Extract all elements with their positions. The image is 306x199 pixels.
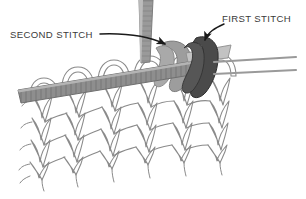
diagram-canvas: SECOND STITCH FIRST STITCH [0, 0, 306, 199]
vertical-knitting-needle [139, 0, 153, 63]
knitting-diagram: SECOND STITCH FIRST STITCH [0, 0, 306, 199]
first-stitch-label: FIRST STITCH [222, 13, 291, 24]
second-stitch-label: SECOND STITCH [10, 29, 93, 40]
